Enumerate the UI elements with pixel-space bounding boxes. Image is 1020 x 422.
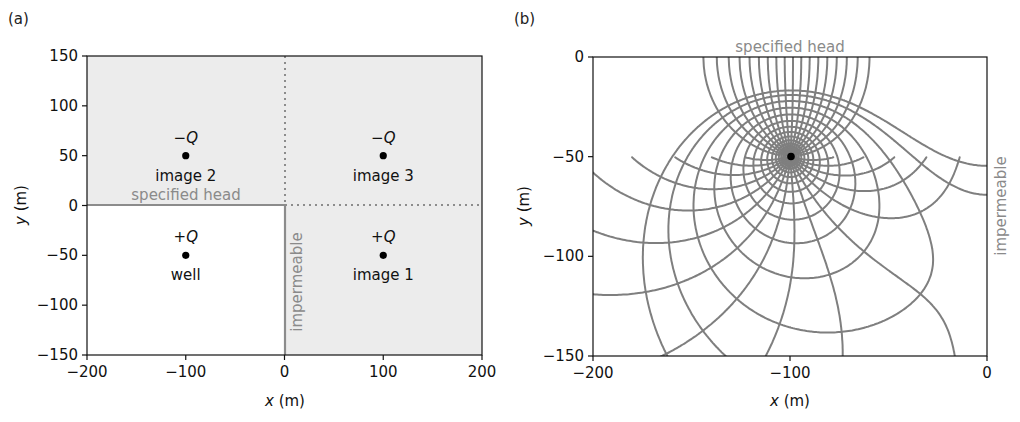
point-marker bbox=[182, 252, 189, 259]
well-marker bbox=[787, 153, 795, 161]
x-axis-label-b: x (m) bbox=[769, 392, 810, 410]
y-tick-label: −50 bbox=[552, 148, 584, 166]
impermeable-label-b: impermeable bbox=[992, 156, 1010, 255]
sign-label: +Q bbox=[174, 228, 199, 246]
figure: (a) −200−1000100200150100500−50−100−150 … bbox=[0, 0, 1020, 422]
x-tick-label: −100 bbox=[165, 363, 206, 381]
panel-b: (b) −200−10000−50−100−150 specified head… bbox=[514, 10, 1010, 410]
y-tick-label: 150 bbox=[49, 47, 78, 65]
specified-head-label: specified head bbox=[131, 186, 240, 204]
panel-a-label: (a) bbox=[8, 10, 29, 28]
y-axis-label-a: y (m) bbox=[12, 185, 30, 226]
y-tick-label: −100 bbox=[543, 247, 584, 265]
x-tick-label: 200 bbox=[468, 363, 497, 381]
point-name-label: image 3 bbox=[353, 167, 414, 185]
y-tick-label: 0 bbox=[574, 48, 584, 66]
sign-label: −Q bbox=[371, 129, 396, 147]
sign-label: −Q bbox=[174, 129, 199, 147]
point-marker bbox=[380, 252, 387, 259]
x-tick-label: −200 bbox=[66, 363, 107, 381]
streamline bbox=[791, 157, 960, 218]
y-tick-label: 50 bbox=[59, 147, 78, 165]
flow-net bbox=[589, 56, 988, 360]
impermeable-label: impermeable bbox=[288, 232, 306, 331]
x-tick-label: 0 bbox=[982, 364, 992, 382]
streamline bbox=[791, 158, 956, 360]
y-tick-label: −150 bbox=[37, 346, 78, 364]
x-tick-label: −100 bbox=[769, 364, 810, 382]
y-tick-label: −150 bbox=[543, 347, 584, 365]
x-axis-label-a: x (m) bbox=[264, 392, 305, 410]
point-marker bbox=[380, 152, 387, 159]
point-name-label: well bbox=[171, 266, 201, 284]
panel-b-label: (b) bbox=[514, 10, 535, 28]
y-tick-label: 100 bbox=[49, 97, 78, 115]
point-name-label: image 2 bbox=[155, 167, 216, 185]
panel-a: (a) −200−1000100200150100500−50−100−150 … bbox=[8, 10, 496, 410]
x-tick-label: 0 bbox=[280, 363, 290, 381]
y-axis-label-b: y (m) bbox=[515, 186, 533, 227]
specified-head-label-b: specified head bbox=[735, 38, 844, 56]
sign-label: +Q bbox=[371, 228, 396, 246]
point-marker bbox=[182, 152, 189, 159]
point-name-label: image 1 bbox=[353, 266, 414, 284]
x-tick-label: 100 bbox=[369, 363, 398, 381]
y-tick-label: −100 bbox=[37, 296, 78, 314]
y-tick-label: 0 bbox=[68, 197, 78, 215]
x-tick-label: −200 bbox=[572, 364, 613, 382]
y-tick-label: −50 bbox=[46, 246, 78, 264]
